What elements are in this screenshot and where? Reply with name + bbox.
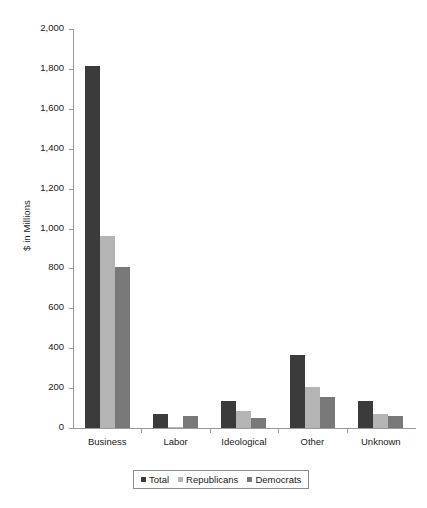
bar-group: [73, 29, 141, 428]
x-axis-line: [73, 428, 416, 429]
bar-group-bars: [141, 29, 209, 428]
y-axis-tick-label: 1,800: [40, 62, 64, 73]
y-axis-tick-label: 2,000: [40, 22, 64, 33]
bar: [153, 414, 168, 428]
legend-item: Democrats: [247, 474, 301, 485]
y-axis-tick-label: 1,000: [40, 222, 64, 233]
bar-chart: $ in Millions 2,0001,8001,6001,4001,2001…: [0, 0, 427, 508]
bar: [290, 355, 305, 428]
y-axis-title: $ in Millions: [21, 166, 32, 286]
bar: [373, 414, 388, 428]
y-axis-tick-label: 1,400: [40, 142, 64, 153]
bar-group-bars: [278, 29, 346, 428]
x-axis-category-label: Ideological: [210, 436, 278, 447]
x-axis-category-label: Unknown: [347, 436, 415, 447]
bar: [388, 416, 403, 428]
x-axis-separator-tick: [347, 428, 348, 433]
bar: [100, 236, 115, 428]
x-axis-category-label: Other: [278, 436, 346, 447]
legend-swatch-icon: [178, 477, 183, 482]
x-axis-category-label: Labor: [141, 436, 209, 447]
y-axis-tick-label: 1,200: [40, 182, 64, 193]
x-axis-separator-tick: [278, 428, 279, 433]
y-axis-tick-mark: [69, 428, 73, 429]
bar: [320, 397, 335, 428]
bar-group-bars: [73, 29, 141, 428]
bar: [183, 416, 198, 428]
legend-swatch-icon: [247, 477, 252, 482]
x-axis-separator-tick: [210, 428, 211, 433]
legend-label: Democrats: [255, 474, 301, 485]
legend-swatch-icon: [141, 477, 146, 482]
legend-item: Total: [141, 474, 169, 485]
chart-legend: TotalRepublicansDemocrats: [133, 470, 309, 489]
bar-group: [278, 29, 346, 428]
bar: [168, 427, 183, 428]
legend-label: Republicans: [186, 474, 238, 485]
plot-area: [73, 29, 415, 428]
bar-group: [141, 29, 209, 428]
bar: [358, 401, 373, 428]
bar-group-bars: [210, 29, 278, 428]
y-axis-tick-label: 400: [48, 341, 64, 352]
y-axis-tick-label: 800: [48, 261, 64, 272]
bar-group: [347, 29, 415, 428]
bar: [85, 66, 100, 428]
legend-label: Total: [149, 474, 169, 485]
x-axis-category-label: Business: [73, 436, 141, 447]
bar-group: [210, 29, 278, 428]
bar: [251, 418, 266, 428]
y-axis-tick-label: 200: [48, 381, 64, 392]
legend-item: Republicans: [178, 474, 238, 485]
x-axis-separator-tick: [141, 428, 142, 433]
y-axis-tick-label: 600: [48, 301, 64, 312]
y-axis-tick-label: 0: [59, 421, 64, 432]
bar-group-bars: [347, 29, 415, 428]
bar: [221, 401, 236, 428]
bar: [236, 411, 251, 428]
y-axis-tick-label: 1,600: [40, 102, 64, 113]
bar: [305, 387, 320, 428]
bar: [115, 267, 130, 428]
